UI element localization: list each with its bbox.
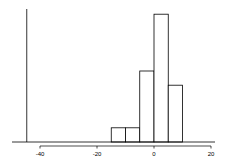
histogram-bar [140, 71, 154, 142]
histogram-bar [126, 128, 140, 142]
histogram-bar [168, 85, 182, 142]
x-tick-label: 20 [208, 151, 215, 157]
x-tick-label: -40 [36, 151, 45, 157]
histogram-bar [154, 14, 168, 142]
histogram-chart: -40-20020 [0, 0, 228, 167]
x-tick-label: -20 [93, 151, 102, 157]
x-axis: -40-20020 [36, 146, 215, 157]
x-tick-label: 0 [152, 151, 156, 157]
histogram-bars [111, 14, 182, 142]
histogram-bar [111, 128, 125, 142]
